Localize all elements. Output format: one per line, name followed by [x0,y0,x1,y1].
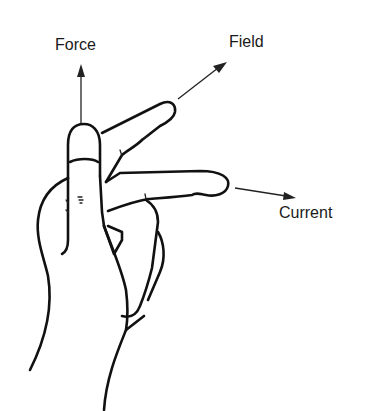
current-arrow [235,188,296,200]
middle-finger [106,171,228,211]
force-label: Force [55,37,96,53]
field-label: Field [229,34,264,50]
curled-fingers [104,200,164,317]
left-hand-rule-diagram: Force Field Current [0,0,372,411]
force-arrow [77,64,85,123]
palm-outline [30,178,144,410]
index-finger [102,102,175,182]
thumb [62,124,104,254]
field-arrow [178,62,227,99]
current-label: Current [279,205,332,221]
